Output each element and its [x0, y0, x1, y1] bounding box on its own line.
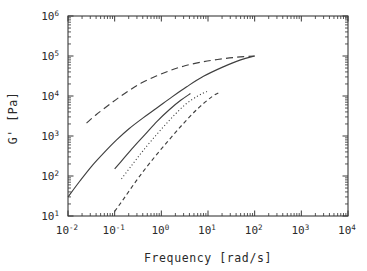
plot-area-background: [68, 16, 348, 216]
x-tick-label: 10-1: [103, 223, 125, 238]
y-tick-label: 101: [41, 209, 59, 224]
y-tick-labels: 101102103104105106: [41, 9, 59, 224]
x-tick-label: 101: [198, 223, 216, 238]
x-tick-label: 100: [151, 223, 169, 238]
x-tick-labels: 10-210-1100101102103104: [56, 223, 357, 238]
y-tick-label: 104: [41, 89, 59, 104]
y-tick-label: 106: [41, 9, 59, 24]
y-tick-label: 102: [41, 169, 59, 184]
x-tick-label: 104: [338, 223, 356, 238]
log-log-plot: 10-210-1100101102103104 1011021031041051…: [0, 0, 367, 271]
y-axis-title: G' [Pa]: [6, 92, 20, 145]
x-axis-title: Frequency [rad/s]: [144, 251, 272, 265]
x-tick-label: 102: [245, 223, 263, 238]
y-tick-label: 105: [41, 49, 59, 64]
x-tick-label: 10-2: [56, 223, 78, 238]
x-tick-label: 103: [291, 223, 309, 238]
y-tick-label: 103: [41, 129, 59, 144]
figure-container: 10-210-1100101102103104 1011021031041051…: [0, 0, 367, 271]
